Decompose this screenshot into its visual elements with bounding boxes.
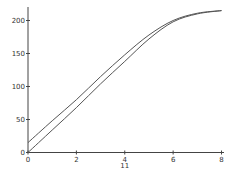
axes	[28, 7, 224, 153]
x-annotation: 11	[120, 162, 129, 170]
y-tick-label: 150	[12, 50, 25, 58]
y-tick-label: 0	[21, 149, 25, 157]
x-tick-label: 2	[74, 156, 78, 164]
series-line-lower	[28, 11, 222, 153]
series-line-upper	[28, 11, 222, 143]
y-ticks: 050100150200	[12, 17, 30, 157]
x-tick-label: 8	[219, 156, 223, 164]
x-tick-label: 0	[26, 156, 30, 164]
line-chart: 050100150200 02468 11	[0, 0, 241, 176]
y-tick-label: 200	[12, 17, 25, 25]
y-tick-label: 50	[16, 116, 25, 124]
x-tick-label: 6	[171, 156, 176, 164]
series-lines	[28, 11, 222, 153]
y-tick-label: 100	[12, 83, 25, 91]
